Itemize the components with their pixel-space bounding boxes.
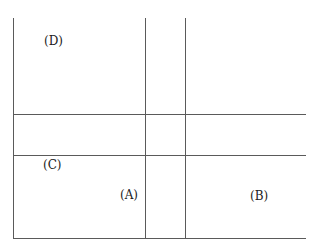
region-label-a: (A) bbox=[120, 189, 138, 201]
region-label-d: (D) bbox=[44, 35, 63, 47]
horizontal-divider-2 bbox=[13, 155, 306, 156]
region-label-b: (B) bbox=[250, 190, 268, 202]
horizontal-divider-1 bbox=[13, 114, 306, 115]
partition-diagram: (D) (C) (A) (B) bbox=[0, 0, 314, 250]
vertical-divider-1 bbox=[145, 18, 146, 239]
left-border-line bbox=[13, 18, 14, 239]
bottom-border-line bbox=[13, 238, 306, 239]
vertical-divider-2 bbox=[185, 18, 186, 239]
region-label-c: (C) bbox=[43, 159, 62, 171]
